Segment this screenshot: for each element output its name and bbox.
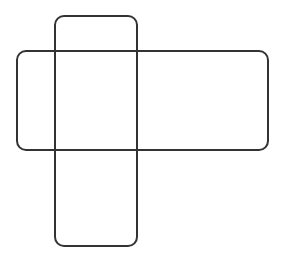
diagram-canvas [0,0,281,255]
overlapping-rectangles-diagram [0,0,281,255]
